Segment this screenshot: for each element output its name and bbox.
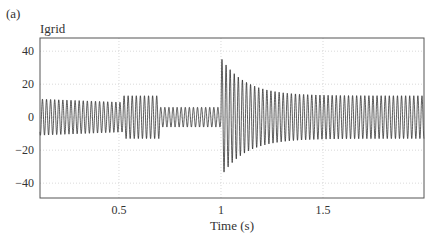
x-tick-label: 1.5 [316, 203, 331, 217]
igrid-trace [40, 59, 424, 172]
igrid-chart: (a) Igrid 40200−20−40 0.511.5 Time (s) [0, 0, 444, 236]
y-axis-ticks: 40200−20−40 [15, 44, 34, 190]
x-axis-label: Time (s) [210, 218, 254, 233]
plot-frame [40, 38, 424, 198]
x-tick-label: 0.5 [111, 203, 126, 217]
signal-label: Igrid [40, 21, 66, 36]
panel-label: (a) [6, 6, 20, 21]
y-tick-label: −40 [15, 176, 34, 190]
grid-lines [40, 38, 424, 198]
y-tick-label: 40 [22, 44, 34, 58]
x-tick-label: 1 [218, 203, 224, 217]
y-tick-label: 20 [22, 77, 34, 91]
y-tick-label: −20 [15, 143, 34, 157]
y-tick-label: 0 [28, 110, 34, 124]
x-axis-ticks: 0.511.5 [111, 203, 330, 217]
